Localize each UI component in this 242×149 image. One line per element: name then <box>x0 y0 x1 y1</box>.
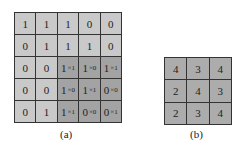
cell-value: 0 <box>104 106 110 118</box>
cell-value: 0 <box>44 84 50 96</box>
caption-b: (b) <box>190 128 203 140</box>
matrix-cell: 1 <box>58 13 78 34</box>
kernel-weight: ×1 <box>110 64 117 72</box>
cell-value: 0 <box>22 40 28 52</box>
result-cell: 3 <box>210 80 231 101</box>
matrix-cell: 1 <box>58 35 78 56</box>
result-cell: 4 <box>210 58 231 79</box>
kernel-overlay-cell: 1×1 <box>101 57 121 78</box>
cell-value: 0 <box>108 18 114 30</box>
cell-value: 1 <box>44 106 50 118</box>
cell-value: 1 <box>65 18 71 30</box>
result-cell: 4 <box>165 58 186 79</box>
kernel-weight: ×0 <box>68 86 75 94</box>
kernel-weight: ×0 <box>89 64 96 72</box>
result-cell: 4 <box>210 103 231 124</box>
matrix-cell: 0 <box>79 13 99 34</box>
matrix-cell: 0 <box>15 57 35 78</box>
cell-value: 1 <box>44 18 50 30</box>
matrix-cell: 0 <box>101 35 121 56</box>
kernel-overlay-cell: 1×1 <box>58 57 78 78</box>
matrix-cell: 0 <box>15 79 35 100</box>
cell-value: 1 <box>82 84 88 96</box>
cell-value: 1 <box>61 62 67 74</box>
cell-value: 0 <box>44 62 50 74</box>
matrix-cell: 1 <box>36 13 56 34</box>
matrix-cell: 0 <box>36 79 56 100</box>
cell-value: 1 <box>61 84 67 96</box>
cell-value: 0 <box>108 40 114 52</box>
cell-value: 1 <box>87 40 93 52</box>
kernel-weight: ×1 <box>89 86 96 94</box>
kernel-overlay-cell: 0×0 <box>79 101 99 122</box>
kernel-weight: ×1 <box>68 64 75 72</box>
matrix-cell: 0 <box>36 57 56 78</box>
matrix-cell: 1 <box>36 101 56 122</box>
matrix-cell: 1 <box>36 35 56 56</box>
cell-value: 1 <box>82 62 88 74</box>
kernel-weight: ×0 <box>110 86 117 94</box>
kernel-weight: ×1 <box>110 108 117 116</box>
caption-a: (a) <box>60 128 72 140</box>
cell-value: 0 <box>22 62 28 74</box>
matrix-cell: 0 <box>15 101 35 122</box>
result-cell: 2 <box>165 80 186 101</box>
matrix-cell: 0 <box>101 13 121 34</box>
kernel-weight: ×0 <box>89 108 96 116</box>
cell-value: 1 <box>104 62 110 74</box>
kernel-overlay-cell: 1×1 <box>79 79 99 100</box>
cell-value: 0 <box>87 18 93 30</box>
cell-value: 0 <box>22 84 28 96</box>
matrix-cell: 1 <box>79 35 99 56</box>
cell-value: 1 <box>44 40 50 52</box>
cell-value: 1 <box>61 106 67 118</box>
matrix-cell: 0 <box>15 35 35 56</box>
kernel-overlay-cell: 1×1 <box>58 101 78 122</box>
cell-value: 1 <box>65 40 71 52</box>
kernel-overlay-cell: 1×0 <box>58 79 78 100</box>
result-cell: 2 <box>165 103 186 124</box>
result-cell: 4 <box>187 80 208 101</box>
output-matrix-grid: 434243234 <box>164 57 232 125</box>
result-cell: 3 <box>187 103 208 124</box>
kernel-weight: ×1 <box>68 108 75 116</box>
kernel-overlay-cell: 0×0 <box>101 79 121 100</box>
result-cell: 3 <box>187 58 208 79</box>
cell-value: 0 <box>82 106 88 118</box>
kernel-overlay-cell: 0×1 <box>101 101 121 122</box>
matrix-cell: 1 <box>15 13 35 34</box>
cell-value: 0 <box>104 84 110 96</box>
kernel-overlay-cell: 1×0 <box>79 57 99 78</box>
cell-value: 1 <box>22 18 28 30</box>
cell-value: 0 <box>22 106 28 118</box>
input-matrix-grid: 1110001110001×11×01×1001×01×10×0011×10×0… <box>14 12 122 123</box>
